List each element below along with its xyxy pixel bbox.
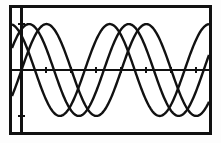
calculator-screen-bezel <box>9 5 212 135</box>
calculator-screenshot <box>0 0 221 143</box>
trig-graph[interactable] <box>12 8 209 132</box>
graph-plot-area[interactable] <box>12 8 209 132</box>
